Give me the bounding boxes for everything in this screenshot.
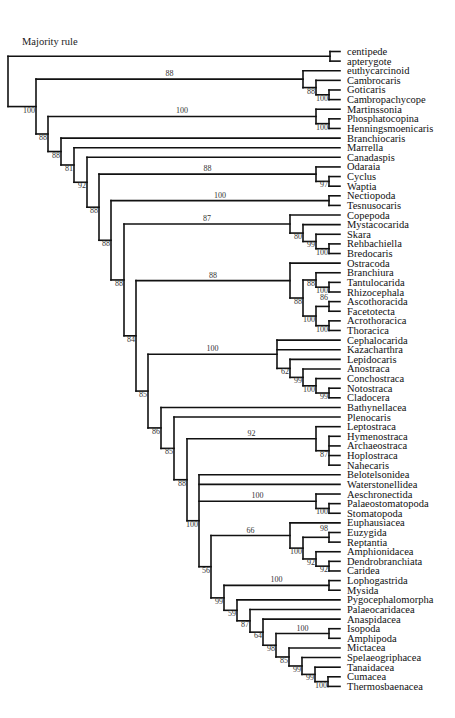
support-value: 62 [281, 367, 289, 376]
support-value: 97 [320, 180, 328, 189]
support-value: 92 [320, 565, 328, 574]
support-value: 88 [115, 279, 123, 288]
support-value: 86 [152, 427, 160, 436]
support-value: 100 [252, 491, 264, 500]
support-value: 99 [215, 597, 223, 606]
support-value: 80 [294, 232, 302, 241]
tree-branches [8, 52, 340, 687]
taxon-labels: centipedeapterygoteeuthycarcinoidCambroc… [347, 46, 434, 692]
support-value: 88 [39, 133, 47, 142]
support-value: 100 [316, 123, 328, 132]
support-value: 92 [307, 558, 315, 567]
support-value: 100 [315, 681, 327, 690]
support-value: 99 [306, 673, 314, 682]
support-value: 87 [203, 214, 211, 223]
support-value: 100 [186, 520, 198, 529]
support-value: 88 [209, 271, 217, 280]
support-value: 88 [166, 69, 174, 78]
support-value: 99 [307, 240, 315, 249]
support-value: 64 [254, 631, 262, 640]
support-value: 100 [176, 106, 188, 115]
support-value: 99 [294, 376, 302, 385]
support-value: 86 [320, 293, 328, 302]
support-value: 59 [228, 609, 236, 618]
support-value: 100 [303, 315, 315, 324]
support-value: 99 [320, 392, 328, 401]
support-value: 85 [165, 447, 173, 456]
support-value: 88 [90, 206, 98, 215]
support-value: 98 [320, 524, 328, 533]
support-value: 98 [267, 644, 275, 653]
support-value: 100 [303, 385, 315, 394]
support-value: 88 [307, 279, 315, 288]
support-value: 85 [280, 656, 288, 665]
support-value: 88 [102, 239, 110, 248]
support-value: 100 [214, 191, 226, 200]
support-value: 81 [65, 164, 73, 173]
support-value: 99 [293, 665, 301, 674]
support-value: 100 [297, 624, 309, 633]
support-value: 100 [290, 547, 302, 556]
tree-title: Majority rule [22, 36, 78, 47]
support-value: 92 [78, 181, 86, 190]
support-value: 100 [316, 248, 328, 257]
support-value: 100 [316, 507, 328, 516]
support-value: 100 [316, 94, 328, 103]
support-value: 85 [139, 390, 147, 399]
support-values: 1008888100881001008881928888978810088878… [23, 69, 328, 689]
support-value: 84 [127, 335, 135, 344]
support-value: 88 [204, 164, 212, 173]
phylogenetic-tree: Majority rule 10088881008810010088819288… [0, 0, 455, 718]
support-value: 88 [307, 87, 315, 96]
support-value: 66 [247, 526, 255, 535]
support-value: 87 [320, 450, 328, 459]
support-value: 88 [294, 297, 302, 306]
support-value: 88 [52, 151, 60, 160]
support-value: 100 [23, 106, 35, 115]
support-value: 100 [207, 344, 219, 353]
support-value: 100 [316, 325, 328, 334]
support-value: 88 [178, 479, 186, 488]
support-value: 92 [248, 429, 256, 438]
support-value: 87 [241, 620, 249, 629]
support-value: 56 [202, 566, 210, 575]
taxon-label: Thermosbaenacea [347, 681, 423, 692]
support-value: 100 [271, 575, 283, 584]
